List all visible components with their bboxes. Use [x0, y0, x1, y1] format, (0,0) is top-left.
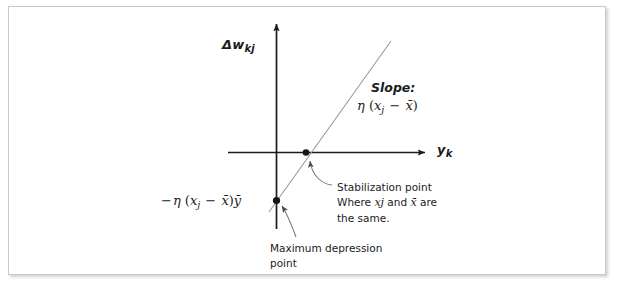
slope-x-bar: x̄	[406, 98, 413, 113]
figure-root: Δwkj yk Slope: η (xj − x̄) −η (xj − x̄)y…	[0, 0, 622, 290]
stabilization-note: Stabilization point Where xj and x̄ are …	[337, 180, 437, 226]
stabilization-note-are: are	[417, 196, 437, 208]
y-axis-label: Δwkj	[222, 36, 255, 55]
stabilization-point-dot	[303, 149, 310, 156]
y-axis-label-base: Δw	[222, 37, 244, 52]
stabilization-note-and: and	[384, 196, 410, 208]
depression-y-bar: ȳ	[234, 193, 241, 208]
depression-note: Maximum depression point	[270, 241, 382, 271]
stabilization-leader-line	[310, 161, 332, 185]
depression-x-bar: x̄	[221, 193, 228, 208]
depression-note-line2: point	[270, 256, 382, 271]
depression-leader-line	[282, 206, 296, 237]
slope-minus: −	[388, 98, 401, 113]
depression-x-subscript: j	[197, 199, 200, 210]
stabilization-note-line3: the same.	[337, 211, 437, 226]
slope-title: Slope:	[371, 80, 415, 97]
depression-eta: η	[173, 193, 181, 208]
y-axis-label-subscript: kj	[244, 43, 254, 54]
maximum-depression-point-dot	[273, 197, 280, 204]
depression-value-label: −η (xj − x̄)ȳ	[160, 192, 241, 211]
depression-minus: −	[204, 193, 217, 208]
slope-expression: η (xj − x̄)	[357, 97, 418, 116]
x-axis-label-base: y	[437, 142, 446, 157]
depression-leading-minus: −	[160, 193, 173, 208]
slope-close-paren: )	[413, 98, 418, 113]
slope-eta: η	[357, 98, 365, 113]
depression-note-line1: Maximum depression	[270, 241, 382, 256]
x-axis-label-subscript: k	[446, 148, 453, 159]
x-axis-label: yk	[437, 141, 453, 160]
stabilization-note-where: Where	[337, 196, 374, 208]
stabilization-note-line1: Stabilization point	[337, 180, 437, 195]
slope-x-subscript: j	[381, 104, 384, 115]
stabilization-note-line2: Where xj and x̄ are	[337, 195, 437, 211]
